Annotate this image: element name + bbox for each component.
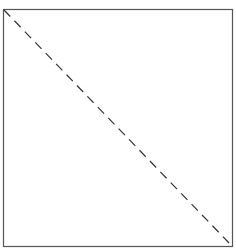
diagram-canvas	[0, 0, 236, 252]
